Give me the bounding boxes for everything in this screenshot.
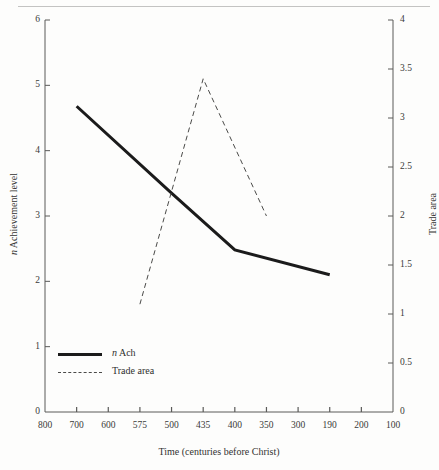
series-lines xyxy=(77,79,330,304)
y-right-tick-label-0.5: 0.5 xyxy=(400,358,422,368)
x-tick-label-800: 800 xyxy=(38,421,52,431)
y-right-tick-label-1: 1 xyxy=(400,309,422,319)
y-axis-left-title-rest: Achievement level xyxy=(8,173,19,250)
x-tick-label-350: 350 xyxy=(259,421,273,431)
y-left-tick-label-4: 4 xyxy=(26,146,40,156)
legend-label-n-ach: n Ach xyxy=(112,347,136,359)
x-tick-label-500: 500 xyxy=(164,421,178,431)
y-left-tick-label-6: 6 xyxy=(26,15,40,25)
y-axis-left-title-italic-n: n xyxy=(8,250,19,255)
x-tick-label-100: 100 xyxy=(386,421,400,431)
figure-chart-n-ach-trade-area: 800700600575500435400350300190200100 012… xyxy=(0,0,439,470)
chart-plot-canvas xyxy=(0,0,439,470)
legend-label-n-ach-rest: Ach xyxy=(117,347,136,358)
x-tick-label-200: 200 xyxy=(354,421,368,431)
x-axis-title: Time (centuries before Christ) xyxy=(159,447,280,457)
y-right-tick-label-0: 0 xyxy=(400,407,422,417)
y-right-tick-label-3.5: 3.5 xyxy=(400,64,422,74)
y-left-tick-label-1: 1 xyxy=(26,342,40,352)
legend-swatch-dashed-line-icon xyxy=(58,372,102,373)
legend-swatch-solid-line-icon xyxy=(58,353,102,356)
x-tick-label-435: 435 xyxy=(196,421,210,431)
legend: n Ach Trade area xyxy=(58,345,188,381)
y-left-tick-label-0: 0 xyxy=(26,407,40,417)
x-tick-label-190: 190 xyxy=(323,421,337,431)
y-right-tick-label-4: 4 xyxy=(400,15,422,25)
x-tick-label-700: 700 xyxy=(70,421,84,431)
x-tick-label-600: 600 xyxy=(101,421,115,431)
y-left-tick-label-5: 5 xyxy=(26,81,40,91)
y-left-tick-label-3: 3 xyxy=(26,211,40,221)
x-tick-label-300: 300 xyxy=(291,421,305,431)
legend-item-n-ach: n Ach xyxy=(58,345,188,363)
y-right-tick-label-1.5: 1.5 xyxy=(400,260,422,270)
legend-item-trade-area: Trade area xyxy=(58,363,188,381)
y-axis-right-title: Trade area xyxy=(428,193,438,235)
legend-label-trade-area: Trade area xyxy=(112,365,154,377)
y-right-tick-label-2.5: 2.5 xyxy=(400,162,422,172)
x-tick-label-575: 575 xyxy=(133,421,147,431)
x-tick-label-400: 400 xyxy=(228,421,242,431)
y-axis-left-title: n Achievement level xyxy=(9,173,19,255)
y-right-tick-label-3: 3 xyxy=(400,113,422,123)
y-right-tick-label-2: 2 xyxy=(400,211,422,221)
y-left-tick-label-2: 2 xyxy=(26,277,40,287)
